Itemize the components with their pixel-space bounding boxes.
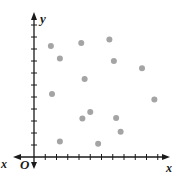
x-axis-label: x [165,161,172,175]
data-point [118,129,124,135]
data-point [78,40,84,46]
data-point [139,65,145,71]
data-point [106,36,112,42]
y-axis-label: y [38,11,46,26]
data-point [48,43,54,49]
data-point [79,116,85,122]
data-point [87,109,93,115]
data-point [151,96,157,102]
data-point [57,138,63,144]
data-point [49,91,55,97]
data-point [111,58,117,64]
data-points [48,36,158,146]
data-point [82,76,88,82]
data-point [113,115,119,121]
scatter-plot: y x x O [0,0,180,181]
data-point [57,56,63,62]
origin-label: O [20,157,30,172]
y-axis-up-arrow-icon [31,12,37,20]
data-point [95,141,101,147]
x-axis-negative-label: x [0,157,7,171]
y-axis-down-arrow-icon [31,162,37,169]
x-axis-right-arrow-icon [162,154,170,160]
